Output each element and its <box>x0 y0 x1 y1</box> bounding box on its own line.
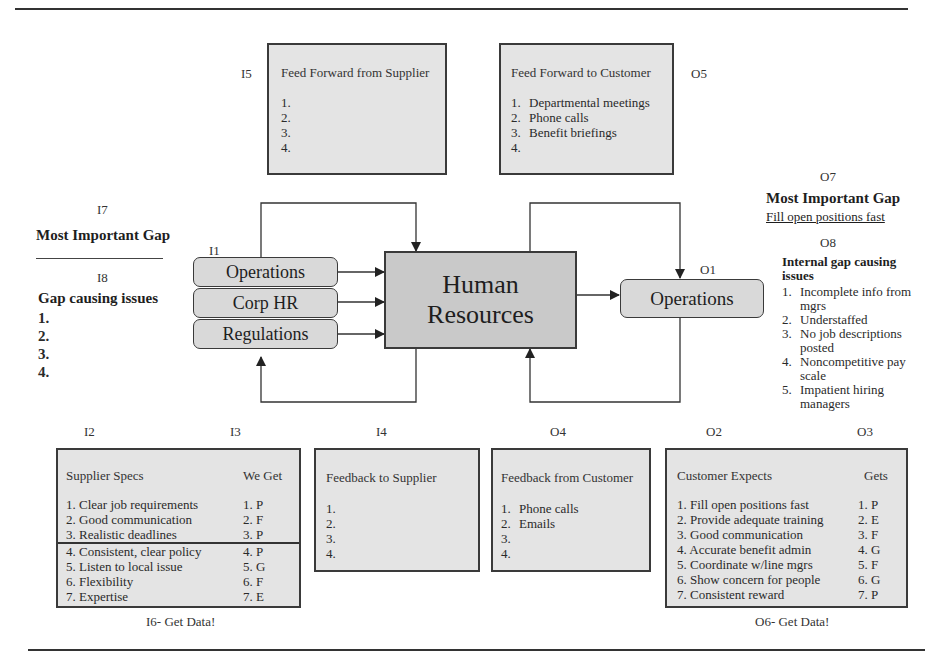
list-item: 2.Emails <box>501 516 641 531</box>
feed-forward-customer-title: Feed Forward to Customer <box>511 65 662 81</box>
list-item: 5.Impatient hiring managers <box>782 383 932 411</box>
code-i5: I5 <box>241 66 252 82</box>
process-human-resources[interactable]: Human Resources <box>384 251 577 349</box>
input-operations[interactable]: Operations <box>193 257 338 287</box>
table-row: 5. Listen to local issue5. G <box>58 559 299 574</box>
list-item: 1.Departmental meetings <box>511 95 662 110</box>
feedback-to-supplier-box: Feedback to Supplier 1. 2. 3. 4. <box>314 448 480 572</box>
list-item: 3. <box>281 125 433 140</box>
right-gap-issues-heading: Internal gap causing issues <box>782 255 902 283</box>
list-item: 2.Understaffed <box>782 313 932 327</box>
feed-forward-customer-box: Feed Forward to Customer 1.Departmental … <box>499 43 674 175</box>
table-row: 1. Fill open positions fast1. P <box>677 497 898 512</box>
right-gap-value: Fill open positions fast <box>766 209 885 225</box>
list-item: 1.Phone calls <box>501 501 641 516</box>
output-operations[interactable]: Operations <box>620 279 764 318</box>
table-row: 6. Show concern for people6. G <box>677 572 898 587</box>
list-item: 1. <box>326 501 468 516</box>
list-item: 3. <box>38 345 49 363</box>
feedback-from-customer-title: Feedback from Customer <box>501 470 641 486</box>
we-get-header: We Get <box>243 468 291 483</box>
list-item: 2. <box>38 327 49 345</box>
list-item: 3.No job descriptions posted <box>782 327 932 355</box>
feedback-from-customer-box: Feedback from Customer 1.Phone calls 2.E… <box>491 448 651 572</box>
list-item: 3. <box>501 531 641 546</box>
code-o5: O5 <box>691 66 707 82</box>
code-i7: I7 <box>97 202 108 218</box>
supplier-specs-box: Supplier Specs We Get 1. Clear job requi… <box>56 448 301 608</box>
table-row: 7. Expertise7. E <box>58 589 299 604</box>
left-gap-issues-heading: Gap causing issues <box>38 290 158 307</box>
table-row: 5. Coordinate w/line mgrs5. F <box>677 557 898 572</box>
list-item: 3. <box>326 531 468 546</box>
code-o8: O8 <box>820 235 836 251</box>
code-i8: I8 <box>97 270 108 286</box>
code-o1: O1 <box>700 262 716 278</box>
process-line-1: Human <box>442 270 519 300</box>
table-row: 6. Flexibility6. F <box>58 574 299 589</box>
list-item: 4.Noncompetitive pay scale <box>782 355 932 383</box>
code-i2: I2 <box>84 424 95 440</box>
supplier-get-data-note: I6- Get Data! <box>146 614 215 630</box>
input-corp-hr[interactable]: Corp HR <box>193 288 338 318</box>
code-i3: I3 <box>230 424 241 440</box>
process-line-2: Resources <box>427 300 534 330</box>
supplier-specs-header: Supplier Specs <box>66 468 243 483</box>
code-o2: O2 <box>706 424 722 440</box>
code-i4: I4 <box>376 424 387 440</box>
list-item: 1. <box>38 309 49 327</box>
list-item: 4. <box>501 546 641 561</box>
list-item: 1. <box>281 95 433 110</box>
list-item: 3.Benefit briefings <box>511 125 662 140</box>
table-row: 1. Clear job requirements1. P <box>58 497 299 512</box>
left-most-important-gap-heading: Most Important Gap <box>36 227 170 244</box>
table-row: 2. Good communication2. F <box>58 512 299 527</box>
feed-forward-supplier-box: Feed Forward from Supplier 1. 2. 3. 4. <box>267 43 447 175</box>
right-most-important-gap-heading: Most Important Gap <box>766 190 900 207</box>
customer-get-data-note: O6- Get Data! <box>755 614 829 630</box>
list-item: 2. <box>281 110 433 125</box>
table-row: 3. Good communication3. F <box>677 527 898 542</box>
gets-header: Gets <box>864 468 898 483</box>
list-item: 1.Incomplete info from mgrs <box>782 285 932 313</box>
code-o7: O7 <box>820 169 836 185</box>
list-item: 4. <box>511 140 662 155</box>
code-o4: O4 <box>550 424 566 440</box>
list-item: 4. <box>326 546 468 561</box>
table-row: 7. Consistent reward7. P <box>677 587 898 602</box>
feedback-to-supplier-title: Feedback to Supplier <box>326 470 468 486</box>
list-item: 2.Phone calls <box>511 110 662 125</box>
list-item: 4. <box>38 363 49 381</box>
table-row: 2. Provide adequate training2. E <box>677 512 898 527</box>
table-row: 3. Realistic deadlines3. P <box>58 527 299 542</box>
feed-forward-supplier-title: Feed Forward from Supplier <box>281 65 433 81</box>
input-regulations[interactable]: Regulations <box>193 319 338 349</box>
left-gap-underline <box>36 258 163 259</box>
code-o3: O3 <box>857 424 873 440</box>
list-item: 4. <box>281 140 433 155</box>
table-row: 4. Accurate benefit admin4. G <box>677 542 898 557</box>
customer-expects-header: Customer Expects <box>677 468 864 483</box>
table-row: 4. Consistent, clear policy4. P <box>58 544 299 559</box>
customer-expects-box: Customer Expects Gets 1. Fill open posit… <box>665 448 908 608</box>
list-item: 2. <box>326 516 468 531</box>
